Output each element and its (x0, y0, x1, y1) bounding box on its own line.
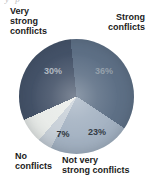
pct-label-not-very-strong: 23% (88, 127, 106, 137)
pie-chart: 30% 36% 7% 23% (19, 39, 134, 154)
pct-label-no-conflicts: 7% (56, 129, 69, 139)
pie-center-highlight (19, 39, 134, 154)
label-not-very-strong-conflicts: Not very strong conflicts (62, 155, 130, 175)
pct-label-very-strong: 30% (44, 66, 62, 76)
cropped-text-fragment: y p (5, 0, 22, 4)
pie-chart-figure: y p Very strong conflicts Strong conflic… (0, 0, 149, 185)
pct-label-strong: 36% (95, 66, 113, 76)
label-no-conflicts: No conflicts (15, 151, 52, 171)
label-strong-conflicts: Strong conflicts (108, 12, 145, 32)
label-very-strong-conflicts: Very strong conflicts (10, 6, 47, 36)
